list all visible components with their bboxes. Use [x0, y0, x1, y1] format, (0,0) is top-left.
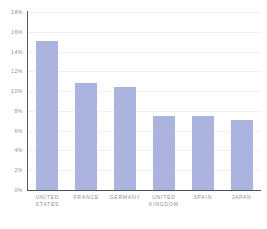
- y-tick-label: 14%: [11, 49, 23, 55]
- x-axis-label-line: KINGDOM: [145, 201, 184, 208]
- x-axis-label-line: UNITED: [28, 194, 67, 201]
- bar-slot: [145, 12, 184, 190]
- x-axis-label-line: UNITED: [145, 194, 184, 201]
- x-axis-label-line: FRANCE: [67, 194, 106, 201]
- bar[interactable]: [75, 83, 97, 190]
- y-tick-label: 6%: [14, 128, 23, 134]
- y-tick-label: 18%: [11, 9, 23, 15]
- y-tick-label: 0%: [14, 187, 23, 193]
- bar-slot: [183, 12, 222, 190]
- x-axis-label: GERMANY: [106, 194, 145, 201]
- x-axis-label: SPAIN: [183, 194, 222, 201]
- bars-layer: [28, 12, 261, 190]
- x-axis-label: FRANCE: [67, 194, 106, 201]
- y-tick-label: 12%: [11, 68, 23, 74]
- y-tick-label: 16%: [11, 29, 23, 35]
- x-axis-label: UNITEDSTATES: [28, 194, 67, 208]
- bar-slot: [28, 12, 67, 190]
- x-axis-label-line: SPAIN: [183, 194, 222, 201]
- bar[interactable]: [153, 116, 175, 190]
- y-tick-label: 10%: [11, 88, 23, 94]
- bar[interactable]: [231, 120, 253, 190]
- x-axis-label-line: GERMANY: [106, 194, 145, 201]
- bar-slot: [106, 12, 145, 190]
- y-tick-label: 4%: [14, 147, 23, 153]
- bar[interactable]: [114, 87, 136, 190]
- y-tick-label: 8%: [14, 108, 23, 114]
- plot-area: 0%2%4%6%8%10%12%14%16%18%: [28, 12, 261, 190]
- x-axis-label-line: STATES: [28, 201, 67, 208]
- x-axis-label: JAPAN: [222, 194, 261, 201]
- bar-slot: [222, 12, 261, 190]
- x-axis-label: UNITEDKINGDOM: [145, 194, 184, 208]
- x-axis-labels: UNITEDSTATESFRANCEGERMANYUNITEDKINGDOMSP…: [28, 194, 261, 224]
- x-axis-label-line: JAPAN: [222, 194, 261, 201]
- x-axis-line: [27, 190, 261, 191]
- bar-slot: [67, 12, 106, 190]
- bar[interactable]: [36, 41, 58, 190]
- bar[interactable]: [192, 116, 214, 190]
- bar-chart: 0%2%4%6%8%10%12%14%16%18% UNITEDSTATESFR…: [0, 0, 267, 229]
- y-tick-label: 2%: [14, 167, 23, 173]
